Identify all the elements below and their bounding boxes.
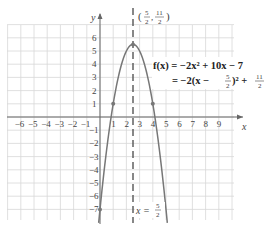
svg-text:−4: −4: [41, 119, 51, 129]
svg-text:5: 5: [164, 119, 169, 129]
svg-text:5: 5: [226, 73, 230, 81]
svg-text:1: 1: [111, 119, 116, 129]
y-axis-label: y: [90, 12, 96, 23]
svg-text:2: 2: [226, 82, 230, 90]
svg-text:−3: −3: [89, 152, 99, 162]
svg-text:3: 3: [92, 72, 97, 82]
svg-text:9: 9: [217, 119, 222, 129]
data-point: [131, 42, 135, 46]
svg-text:11: 11: [256, 73, 263, 81]
symmetry-label: x = 5 2: [135, 202, 165, 219]
svg-text:f(x) = −2x² + 10x − 7: f(x) = −2x² + 10x − 7: [153, 60, 243, 72]
svg-text:−1: −1: [89, 125, 99, 135]
svg-text:11: 11: [156, 9, 163, 17]
svg-text:−2: −2: [89, 138, 99, 148]
data-point: [98, 207, 102, 211]
svg-text:(: (: [138, 10, 142, 23]
svg-text:2: 2: [92, 86, 97, 96]
svg-text:−5: −5: [89, 178, 99, 188]
equation-label: f(x) = −2x² + 10x − 7 = −2(x − 5 2 )² + …: [152, 57, 266, 90]
svg-text:−6: −6: [15, 119, 25, 129]
svg-text:5: 5: [156, 202, 160, 210]
svg-text:−2: −2: [68, 119, 78, 129]
data-point: [151, 102, 155, 106]
svg-text:−7: −7: [89, 204, 99, 214]
data-point: [111, 102, 115, 106]
svg-text:5: 5: [92, 46, 97, 56]
svg-text:): ): [166, 10, 170, 23]
svg-text:= −2(x −: = −2(x −: [172, 75, 209, 87]
svg-text:−4: −4: [89, 165, 99, 175]
svg-text:2: 2: [124, 119, 128, 129]
svg-text:7: 7: [190, 119, 195, 129]
parabola-chart: −6−5−4−3−2−1123456789654321−1−2−3−4−5−6−…: [0, 0, 271, 231]
svg-text:6: 6: [92, 33, 97, 43]
svg-text:−6: −6: [89, 191, 99, 201]
svg-text:4: 4: [92, 59, 97, 69]
vertex-label: ( 5 2 , 11 2 ): [138, 9, 170, 26]
svg-text:6: 6: [177, 119, 182, 129]
svg-text:x =: x =: [135, 205, 150, 216]
svg-text:)² +: )² +: [232, 75, 247, 87]
svg-text:5: 5: [145, 9, 149, 17]
svg-text:−3: −3: [54, 119, 64, 129]
svg-text:2: 2: [258, 82, 262, 90]
svg-text:8: 8: [204, 119, 209, 129]
svg-text:2: 2: [145, 18, 149, 26]
svg-text:2: 2: [158, 18, 162, 26]
svg-text:,: ,: [151, 12, 153, 22]
svg-text:2: 2: [156, 211, 160, 219]
svg-text:−5: −5: [28, 119, 38, 129]
svg-text:3: 3: [138, 119, 143, 129]
x-axis-label: x: [241, 121, 247, 132]
svg-text:1: 1: [92, 99, 97, 109]
